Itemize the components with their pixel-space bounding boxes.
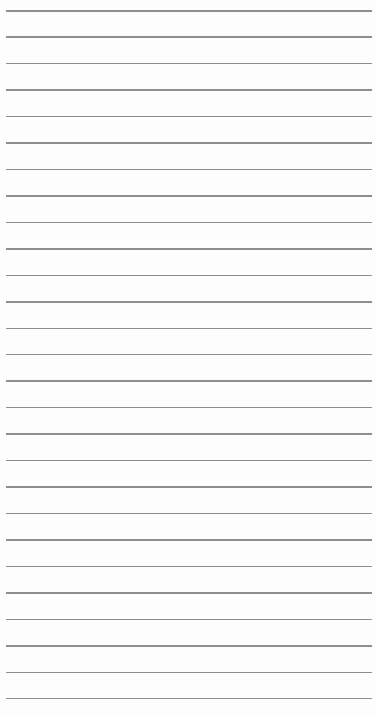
ruled-line xyxy=(6,380,372,382)
ruled-line xyxy=(6,698,372,700)
ruled-line xyxy=(6,407,372,409)
ruled-line xyxy=(6,539,372,541)
ruled-line xyxy=(6,672,372,674)
ruled-line xyxy=(6,195,372,197)
ruled-line xyxy=(6,645,372,647)
ruled-line xyxy=(6,619,372,621)
ruled-line xyxy=(6,433,372,435)
ruled-line xyxy=(6,116,372,118)
ruled-line xyxy=(6,354,372,356)
ruled-line xyxy=(6,486,372,488)
ruled-line xyxy=(6,328,372,330)
ruled-line xyxy=(6,63,372,65)
ruled-line xyxy=(6,248,372,250)
ruled-line xyxy=(6,89,372,91)
ruled-line xyxy=(6,10,372,12)
ruled-line xyxy=(6,222,372,224)
ruled-line xyxy=(6,169,372,171)
ruled-line xyxy=(6,36,372,38)
ruled-line xyxy=(6,142,372,144)
ruled-line xyxy=(6,592,372,594)
ruled-line xyxy=(6,566,372,568)
ruled-line xyxy=(6,460,372,462)
ruled-line xyxy=(6,275,372,277)
ruled-line xyxy=(6,513,372,515)
lined-paper-sheet xyxy=(0,0,376,716)
ruled-line xyxy=(6,301,372,303)
